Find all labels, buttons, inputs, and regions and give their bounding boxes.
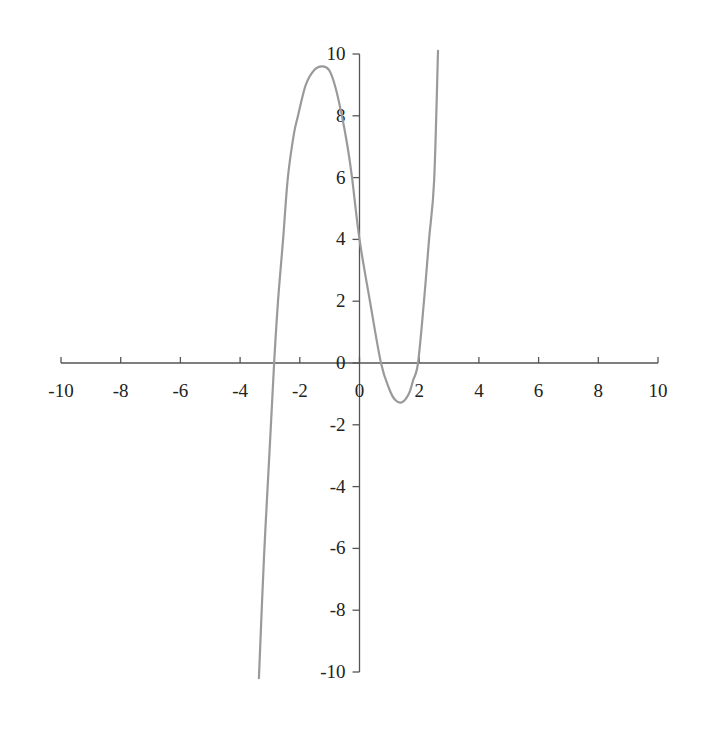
y-tick-label: 6 [336, 167, 346, 188]
y-tick-label: -2 [330, 414, 346, 435]
y-tick-label: 0 [336, 352, 346, 373]
x-tick-label: 10 [649, 380, 668, 401]
function-curve [259, 51, 438, 678]
x-axis-ticks [61, 357, 658, 363]
x-tick-label: 0 [355, 380, 365, 401]
y-tick-label: -6 [330, 537, 346, 558]
y-tick-label: 2 [336, 290, 346, 311]
x-tick-label: -6 [172, 380, 188, 401]
x-tick-label: 6 [534, 380, 544, 401]
x-tick-label: -4 [232, 380, 248, 401]
x-tick-label: -10 [48, 380, 73, 401]
x-tick-label: -8 [113, 380, 129, 401]
x-tick-label: 8 [594, 380, 604, 401]
y-axis-ticks [353, 54, 360, 672]
x-axis-tick-labels: -10-8-6-4-20246810 [48, 380, 667, 401]
x-tick-label: 2 [414, 380, 424, 401]
x-tick-label: -2 [292, 380, 308, 401]
y-tick-label: -8 [330, 599, 346, 620]
y-tick-label: 4 [336, 228, 346, 249]
function-plot: -10-8-6-4-20246810 -10-8-6-4-20246810 [0, 0, 702, 730]
y-tick-label: -4 [330, 476, 346, 497]
x-tick-label: 4 [474, 380, 484, 401]
y-tick-label: -10 [320, 661, 345, 682]
y-tick-label: 10 [327, 43, 346, 64]
